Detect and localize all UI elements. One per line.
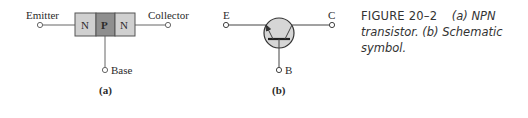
emitter-label: Emitter xyxy=(26,9,59,21)
panel-b-label: (b) xyxy=(272,84,285,96)
b-label: B xyxy=(285,64,292,76)
n-region-right-label: N xyxy=(120,19,128,31)
e-label: E xyxy=(223,9,230,21)
n-region-left-label: N xyxy=(81,19,89,31)
c-label: C xyxy=(328,9,335,21)
base-label: Base xyxy=(111,64,132,76)
p-region-label: P xyxy=(101,19,108,31)
transistor-symbol xyxy=(223,18,334,73)
c-terminal-icon xyxy=(329,22,334,27)
figure-caption: FIGURE 20–2 (a) NPN transistor. (b) Sche… xyxy=(361,8,526,56)
collector-terminal-icon xyxy=(165,22,170,27)
base-terminal-icon xyxy=(102,67,107,72)
b-terminal-icon xyxy=(276,67,281,72)
figure-number: FIGURE 20–2 xyxy=(361,9,437,23)
panel-a-label: (a) xyxy=(99,84,112,96)
e-terminal-icon xyxy=(223,22,228,27)
collector-label: Collector xyxy=(148,9,189,21)
emitter-terminal-icon xyxy=(37,22,42,27)
